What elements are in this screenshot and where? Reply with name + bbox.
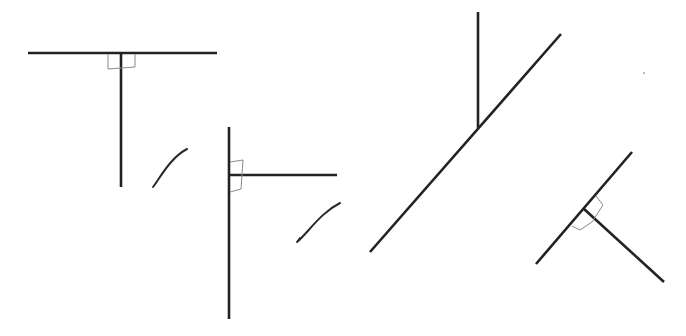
- check-mark-icon: [153, 149, 187, 187]
- figure-3: [370, 12, 561, 252]
- line-segment: [584, 209, 664, 282]
- diagram-canvas: Four pairs of line segments meeting at a…: [0, 0, 686, 336]
- figure-2: [229, 127, 340, 319]
- check-mark-icon: [297, 203, 340, 242]
- figure-4: [536, 152, 664, 282]
- perpendicular-lines-diagram: [0, 0, 686, 336]
- line-segment: [370, 34, 561, 252]
- line-segment: [536, 152, 632, 264]
- speck: [643, 72, 645, 74]
- figure-1: [28, 53, 217, 187]
